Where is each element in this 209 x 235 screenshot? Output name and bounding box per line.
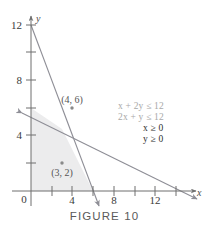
point-marker-3-2 <box>60 161 63 164</box>
linear-programming-plot: 12 8 4 0 4 8 12 x y (4, 6) (3, 2) <box>0 0 209 235</box>
x-tick-label-12: 12 <box>150 194 161 206</box>
origin-label: 0 <box>21 193 27 205</box>
point-label-4-6: (4, 6) <box>61 94 83 106</box>
y-tick-label-12: 12 <box>11 19 22 31</box>
feasible-region-shading <box>31 108 93 191</box>
point-label-3-2: (3, 2) <box>51 167 73 179</box>
x-tick-label-4: 4 <box>69 194 75 206</box>
y-tick-label-4: 4 <box>17 129 23 141</box>
x-tick-label-8: 8 <box>111 194 117 206</box>
figure-caption: FIGURE 10 <box>0 210 209 222</box>
constraint-2x-plus-y: 2x + y ≤ 12 <box>118 112 164 122</box>
point-marker-4-6 <box>70 106 73 109</box>
y-tick-label-8: 8 <box>17 74 23 86</box>
constraint-y-nonneg: y ≥ 0 <box>143 134 163 144</box>
constraint-x-nonneg: x ≥ 0 <box>143 123 163 133</box>
y-axis-label: y <box>35 13 41 24</box>
constraint-x-plus-2y: x + 2y ≤ 12 <box>118 101 164 111</box>
x-axis-label: x <box>196 187 202 198</box>
figure-10-container: 12 8 4 0 4 8 12 x y (4, 6) (3, 2) x + 2y… <box>0 0 209 235</box>
